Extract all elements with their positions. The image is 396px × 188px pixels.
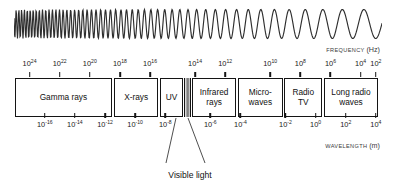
frequency-tick-mark [89, 72, 91, 77]
frequency-tick-label: 102 [370, 58, 381, 69]
wavelength-axis-title-text: WAVELENGTH [325, 143, 367, 149]
frequency-tick-mark [269, 72, 271, 77]
band-microwaves: Micro-waves [238, 78, 282, 117]
wavelength-tick-label: 10-4 [234, 119, 247, 130]
frequency-tick-mark [194, 72, 196, 77]
band-label-radio-tv: RadioTV [291, 88, 315, 107]
frequency-tick-mark [375, 72, 377, 77]
frequency-axis-title-text: FREQUENCY [326, 47, 364, 53]
frequency-axis-unit: (Hz) [366, 45, 380, 54]
frequency-tick-mark [224, 72, 226, 77]
wavelength-tick-label: 10-10 [127, 119, 143, 130]
wavelength-tick-mark [209, 113, 211, 118]
frequency-tick-label: 1022 [53, 58, 67, 69]
frequency-tick-label: 106 [325, 58, 336, 69]
frequency-tick-mark [119, 72, 121, 77]
band-x-rays: X-rays [114, 78, 158, 117]
wavelength-tick-mark [104, 113, 106, 118]
wavelength-tick-label: 100 [310, 119, 321, 130]
band-gamma-rays: Gamma rays [15, 78, 112, 117]
wavelength-tick-label: 10-12 [97, 119, 113, 130]
frequency-tick-mark [29, 72, 31, 77]
band-label-microwaves: Micro-waves [248, 88, 274, 107]
wavelength-tick-labels: 10-1610-1410-1210-1010-810-610-410-21001… [15, 119, 378, 131]
wavelength-tick-label: 10-2 [279, 119, 292, 130]
frequency-tick-label: 1010 [263, 58, 277, 69]
band-label-ultraviolet: UV [165, 93, 179, 103]
wavelength-tick-mark [375, 113, 377, 118]
band-long-radio-waves: Long radiowaves [324, 78, 378, 117]
wavelength-tick-mark [164, 113, 166, 118]
frequency-tick-marks [15, 72, 378, 77]
wavelength-tick-mark [345, 113, 347, 118]
wavelength-tick-label: 10-14 [67, 119, 83, 130]
frequency-tick-label: 1024 [23, 58, 37, 69]
wavelength-tick-mark [240, 113, 242, 118]
band-label-x-rays: X-rays [123, 93, 149, 103]
frequency-axis-title: FREQUENCY (Hz) [326, 45, 380, 54]
wavelength-tick-label: 10-8 [159, 119, 172, 130]
wavelength-tick-marks [15, 113, 378, 118]
frequency-tick-label: 1014 [188, 58, 202, 69]
wavelength-axis-title: WAVELENGTH (m) [325, 141, 380, 150]
frequency-tick-mark [149, 72, 151, 77]
band-label-gamma-rays: Gamma rays [39, 93, 88, 103]
band-infrared-rays: Infraredrays [192, 78, 236, 117]
frequency-tick-mark [300, 72, 302, 77]
band-visible-light [184, 78, 191, 117]
frequency-tick-label: 1012 [218, 58, 232, 69]
electromagnetic-wave-illustration [14, 4, 382, 44]
wavelength-axis-unit: (m) [369, 141, 380, 150]
band-label-infrared-rays: Infraredrays [199, 88, 230, 107]
band-radio-tv: RadioTV [284, 78, 322, 117]
wavelength-tick-mark [315, 113, 317, 118]
frequency-tick-mark [360, 72, 362, 77]
frequency-tick-label: 108 [295, 58, 306, 69]
frequency-tick-mark [59, 72, 61, 77]
wavelength-tick-mark [134, 113, 136, 118]
wavelength-tick-mark [285, 113, 287, 118]
wavelength-tick-label: 102 [340, 119, 351, 130]
spectrum-bar: Gamma raysX-raysUVInfraredraysMicro-wave… [15, 78, 378, 117]
visible-light-caption: Visible light [148, 170, 232, 180]
wavelength-tick-mark [44, 113, 46, 118]
frequency-tick-label: 1016 [143, 58, 157, 69]
frequency-tick-mark [330, 72, 332, 77]
frequency-tick-label: 1018 [113, 58, 127, 69]
wavelength-tick-mark [74, 113, 76, 118]
wavelength-tick-label: 10-6 [204, 119, 217, 130]
frequency-tick-labels: 1024102210201018101610141012101010810610… [15, 58, 378, 70]
frequency-tick-label: 1020 [83, 58, 97, 69]
wavelength-tick-label: 104 [370, 119, 381, 130]
frequency-tick-label: 104 [355, 58, 366, 69]
electromagnetic-spectrum-diagram: FREQUENCY (Hz) 1024102210201018101610141… [0, 0, 396, 188]
wavelength-tick-label: 10-16 [37, 119, 53, 130]
band-ultraviolet: UV [160, 78, 182, 117]
band-label-long-radio-waves: Long radiowaves [330, 88, 371, 107]
